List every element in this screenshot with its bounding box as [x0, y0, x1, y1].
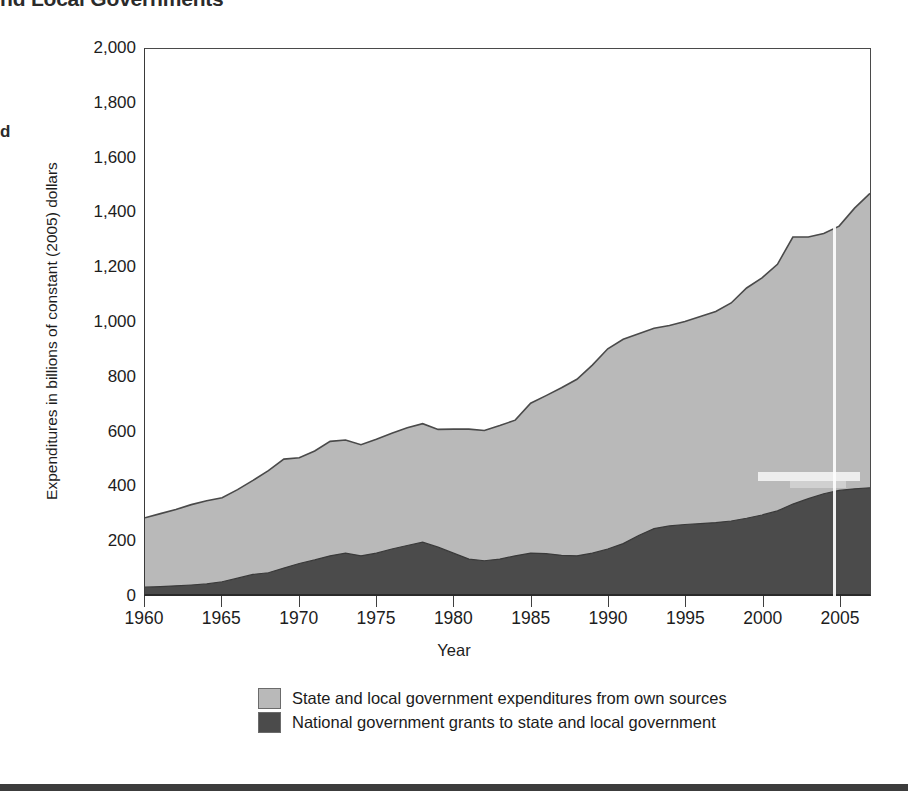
- y-tick-label: 1,600: [0, 148, 136, 168]
- y-tick-label: 800: [0, 367, 136, 387]
- x-tick-label: 1970: [279, 608, 318, 629]
- legend-label-own-sources: State and local government expenditures …: [292, 689, 727, 708]
- legend-swatch-own-sources: [258, 688, 281, 709]
- x-tick-label: 1995: [666, 608, 705, 629]
- margin-text-stub: d: [0, 122, 10, 142]
- x-tick-mark: [221, 596, 222, 607]
- page-bottom-rule: [0, 784, 908, 791]
- x-tick-label: 1980: [434, 608, 473, 629]
- figure-page: nd Local Governments d Expenditures in b…: [0, 0, 908, 803]
- legend-item-grants: National government grants to state and …: [258, 711, 727, 733]
- y-tick-label: 200: [0, 531, 136, 551]
- y-tick-label: 400: [0, 476, 136, 496]
- x-tick-mark: [453, 596, 454, 607]
- x-tick-label: 2005: [821, 608, 860, 629]
- x-tick-mark: [608, 596, 609, 607]
- x-tick-mark: [144, 596, 145, 607]
- y-tick-label: 600: [0, 422, 136, 442]
- y-tick-label: 1,800: [0, 93, 136, 113]
- legend-swatch-grants: [258, 712, 281, 733]
- plot-area: [144, 48, 871, 596]
- y-tick-label: 0: [0, 586, 136, 606]
- y-tick-label: 1,400: [0, 202, 136, 222]
- x-tick-label: 2000: [743, 608, 782, 629]
- scan-artifact-horizontal: [758, 472, 860, 481]
- scan-artifact-horizontal-secondary: [790, 481, 846, 488]
- x-tick-label: 1965: [202, 608, 241, 629]
- legend-label-grants: National government grants to state and …: [292, 713, 716, 732]
- x-tick-mark: [840, 596, 841, 607]
- x-tick-mark: [299, 596, 300, 607]
- x-tick-mark: [763, 596, 764, 607]
- y-tick-label: 1,000: [0, 312, 136, 332]
- y-tick-label: 1,200: [0, 257, 136, 277]
- x-tick-mark: [531, 596, 532, 607]
- chart-legend: State and local government expenditures …: [258, 687, 727, 735]
- y-tick-label: 2,000: [0, 38, 136, 58]
- x-tick-label: 1990: [589, 608, 628, 629]
- x-tick-mark: [685, 596, 686, 607]
- figure-title: nd Local Governments: [0, 0, 224, 9]
- scan-artifact-vertical: [833, 226, 836, 596]
- stacked-area-chart: [145, 49, 870, 594]
- x-tick-mark: [376, 596, 377, 607]
- x-tick-label: 1985: [511, 608, 550, 629]
- x-tick-label: 1960: [125, 608, 164, 629]
- y-axis-title: Expenditures in billions of constant (20…: [43, 96, 61, 566]
- legend-item-own-sources: State and local government expenditures …: [258, 687, 727, 709]
- x-axis-title: Year: [0, 641, 908, 660]
- x-tick-label: 1975: [357, 608, 396, 629]
